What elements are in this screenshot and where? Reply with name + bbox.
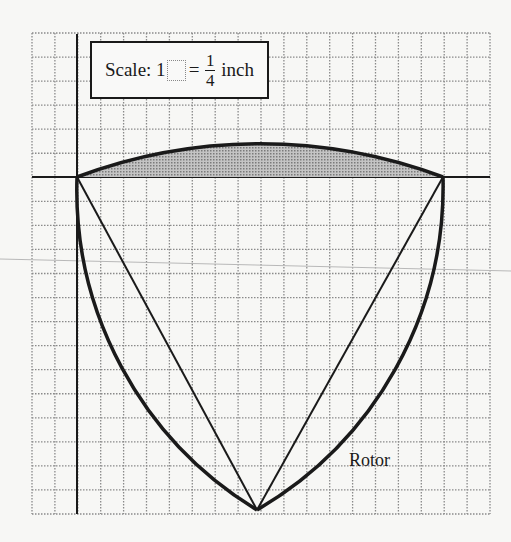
scale-fraction: 1 4 bbox=[205, 52, 215, 89]
rotor-label: Rotor bbox=[349, 450, 390, 471]
grid-square-icon bbox=[167, 60, 186, 81]
fraction-denominator: 4 bbox=[206, 72, 215, 89]
scale-unit: inch bbox=[221, 59, 254, 81]
scale-equals: = bbox=[189, 59, 200, 81]
left-chord bbox=[77, 177, 257, 510]
grid-paper bbox=[32, 33, 490, 514]
scale-prefix: Scale: 1 bbox=[105, 59, 166, 81]
scale-legend: Scale: 1 = 1 4 inch bbox=[90, 41, 269, 99]
fraction-numerator: 1 bbox=[206, 52, 215, 69]
